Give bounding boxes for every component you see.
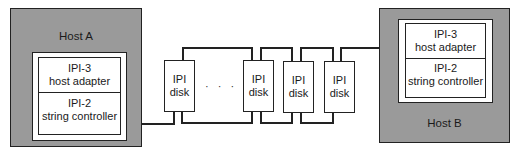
cable-disk2-disk3-bottom	[261, 112, 292, 123]
host-a: Host A IPI-3 host adapter IPI-2 string c…	[10, 8, 142, 147]
disk-4-line1: IPI	[333, 74, 346, 87]
disk-2-line2: disk	[249, 86, 269, 99]
host-b-controller: IPI-2 string controller	[406, 59, 485, 97]
disk-1-line2: disk	[170, 86, 190, 99]
host-a-adapter-line2: host adapter	[39, 75, 120, 88]
host-b-adapter-line1: IPI-3	[406, 28, 485, 41]
disk-3-line2: disk	[289, 87, 309, 100]
host-a-controller-line1: IPI-2	[39, 97, 120, 110]
cable-disk1-disk2-bottom	[182, 112, 252, 123]
ipi-disk-2: IPI disk	[243, 60, 274, 112]
disk-1-line1: IPI	[173, 73, 186, 86]
disk-3-line1: IPI	[292, 74, 305, 87]
host-b-label: Host B	[380, 117, 509, 129]
host-b: IPI-3 host adapter IPI-2 string controll…	[379, 8, 510, 143]
host-a-adapter: IPI-3 host adapter	[39, 58, 120, 93]
disk-2-line1: IPI	[252, 73, 265, 86]
host-a-interface-frame: IPI-3 host adapter IPI-2 string controll…	[32, 52, 127, 141]
host-a-adapter-line1: IPI-3	[39, 62, 120, 75]
host-b-controller-line1: IPI-2	[406, 62, 485, 75]
host-a-interface-stack: IPI-3 host adapter IPI-2 string controll…	[38, 57, 121, 135]
host-b-adapter-line2: host adapter	[406, 41, 485, 54]
disk-4-line2: disk	[330, 87, 350, 100]
ipi-disk-3: IPI disk	[283, 61, 314, 113]
ipi-disk-1: IPI disk	[164, 60, 195, 112]
host-a-controller: IPI-2 string controller	[39, 93, 120, 134]
ipi-disk-4: IPI disk	[324, 61, 355, 113]
cable-disk3-disk4-bottom	[301, 112, 333, 123]
cable-disk3-disk4-top	[301, 48, 333, 61]
host-b-adapter: IPI-3 host adapter	[406, 24, 485, 59]
host-b-interface-frame: IPI-3 host adapter IPI-2 string controll…	[398, 19, 493, 103]
host-a-controller-line2: string controller	[39, 110, 120, 123]
host-b-controller-line2: string controller	[406, 75, 485, 88]
host-b-interface-stack: IPI-3 host adapter IPI-2 string controll…	[405, 23, 486, 98]
host-a-label: Host A	[11, 30, 141, 42]
